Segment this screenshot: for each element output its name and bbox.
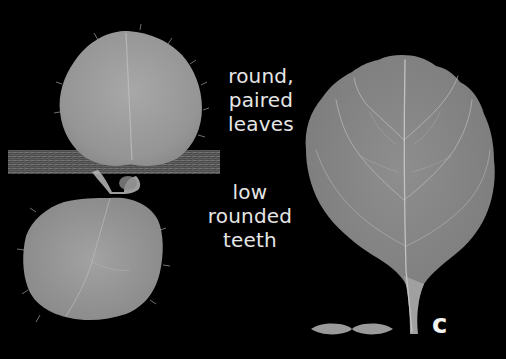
seedling (8, 24, 220, 322)
annotation-line: paired (222, 88, 300, 112)
panel-letter: c (432, 309, 447, 339)
leaf-pair-silhouette-icon (311, 324, 393, 335)
annotation-line: rounded (200, 204, 300, 228)
annotation-line: round, (222, 64, 300, 88)
botanical-figure: round, paired leaves low rounded teeth c (0, 0, 506, 359)
annotation-line: low (200, 180, 300, 204)
annotation-line: teeth (200, 228, 300, 252)
annotation-round-paired-leaves: round, paired leaves (222, 64, 300, 136)
large-leaf-blade (306, 55, 495, 310)
annotation-low-rounded-teeth: low rounded teeth (200, 180, 300, 252)
annotation-line: leaves (222, 112, 300, 136)
large-leaf (306, 55, 495, 334)
